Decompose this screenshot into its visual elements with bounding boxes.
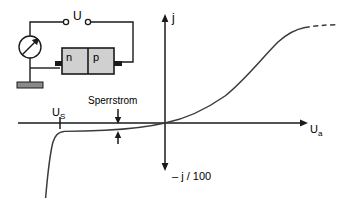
x-axis-subscript: a [318,129,322,138]
breakdown-voltage-subscript: S [60,112,65,121]
axis-arrowheads [162,14,308,171]
y-axis-label: j [172,12,175,24]
reverse-current-label: Sperrstrom [88,96,137,106]
breakdown-curve [46,131,64,198]
x-axis-arrow-icon [300,120,308,127]
y-axis-arrow-down-icon [162,163,169,171]
x-axis-symbol: U [310,123,318,135]
reverse-leakage-curve [64,123,165,131]
p-region-label: p [93,52,99,63]
saturation-curve-dashed [305,25,336,28]
ground-icon [17,82,43,88]
breakdown-voltage-symbol: U [52,106,60,118]
source-voltage-label: U [73,10,82,22]
forward-bias-curve [165,28,305,124]
x-axis-label: Ua [310,124,322,138]
ammeter-icon [19,36,41,58]
negative-axis-label: – j / 100 [172,171,211,182]
y-axis-arrow-up-icon [162,14,169,22]
n-region-label: n [66,52,72,63]
reverse-current-indicator [115,109,121,144]
diode-characteristic-figure: U n p US Sperrstrom j Ua – j / 100 [0,0,347,200]
breakdown-voltage-label: US [52,107,65,121]
chart-axes [18,20,305,164]
